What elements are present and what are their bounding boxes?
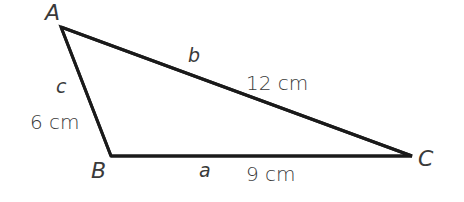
triangle-diagram: A B C c 6 cm b 12 cm a 9 cm <box>0 0 464 202</box>
vertex-a-label: A <box>43 0 60 25</box>
vertex-c-label: C <box>418 146 434 171</box>
vertex-b-label: B <box>91 158 106 183</box>
side-b-line <box>61 27 412 156</box>
side-c-label: c <box>56 75 67 97</box>
side-c-line <box>61 27 111 156</box>
side-a-length: 9 cm <box>246 162 296 186</box>
side-b-label: b <box>188 44 200 66</box>
side-c-length: 6 cm <box>30 110 80 134</box>
side-b-length: 12 cm <box>246 71 308 95</box>
side-a-label: a <box>199 159 211 181</box>
